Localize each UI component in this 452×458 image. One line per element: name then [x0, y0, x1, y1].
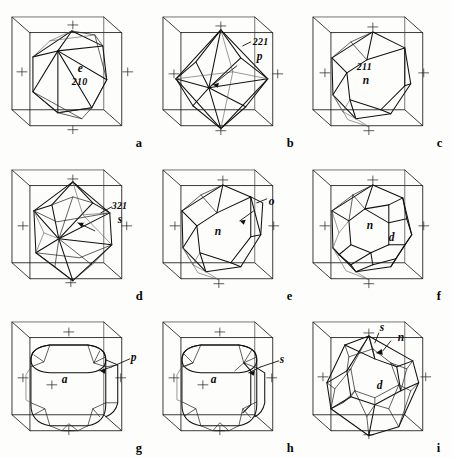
face-symbol-d: d	[389, 230, 395, 242]
labels-e: n o	[215, 195, 275, 237]
axis-ticks-e	[170, 176, 279, 288]
solid-d	[34, 182, 112, 281]
panel-b: 221 p b	[151, 0, 302, 153]
miller-index-321: 321	[111, 200, 128, 211]
face-symbol-n: n	[398, 331, 404, 343]
axis-ticks-f	[320, 176, 429, 288]
panel-d: 321 s d	[0, 153, 151, 306]
axis-ticks-g	[18, 328, 126, 435]
panel-label-h: h	[286, 441, 293, 455]
panel-label-c: c	[437, 136, 443, 150]
face-symbol-a: a	[211, 373, 217, 385]
face-symbol-s: s	[379, 321, 385, 333]
miller-index-211: 211	[356, 61, 372, 72]
panel-h: a s h	[151, 305, 302, 458]
panel-c: 211 n c	[301, 0, 452, 153]
panel-label-e: e	[286, 288, 292, 302]
face-symbol-n: n	[215, 224, 221, 236]
panel-a: e 210 a	[0, 0, 151, 153]
solid-h	[177, 345, 265, 431]
crystal-forms-figure: e 210 a	[0, 0, 452, 458]
labels-a: e 210	[71, 62, 88, 87]
panel-label-d: d	[136, 288, 143, 302]
face-symbol-a: a	[62, 373, 68, 385]
panel-label-f: f	[437, 288, 442, 302]
solid-c	[332, 32, 411, 127]
face-symbol-d: d	[377, 379, 383, 391]
face-symbol-n: n	[363, 74, 369, 86]
face-symbol-p: p	[130, 351, 137, 364]
solid-f	[332, 185, 412, 280]
leader-b	[213, 42, 251, 88]
labels-h: a s	[211, 353, 285, 385]
solid-a	[33, 31, 107, 119]
panel-g: a p g	[0, 305, 151, 458]
face-symbol-o: o	[268, 195, 274, 207]
labels-d: 321 s	[111, 200, 128, 225]
face-symbol-p: p	[255, 50, 262, 63]
face-symbol-n: n	[367, 218, 373, 230]
face-symbol-e: e	[78, 62, 83, 74]
panel-label-i: i	[437, 441, 441, 455]
panel-label-g: g	[136, 441, 143, 455]
panel-f: n d f	[301, 153, 452, 306]
miller-index-210: 210	[71, 76, 88, 87]
face-symbol-s: s	[117, 212, 123, 224]
labels-c: 211 n	[356, 61, 372, 86]
panel-label-b: b	[286, 136, 293, 150]
axis-ticks-c	[320, 23, 429, 135]
labels-i: s n d	[377, 321, 404, 391]
axis-ticks-h	[169, 328, 277, 435]
labels-b: 221 p	[251, 36, 268, 63]
solid-e	[182, 185, 263, 280]
miller-index-221: 221	[251, 36, 268, 47]
panel-i: s n d i	[301, 305, 452, 458]
panel-label-a: a	[136, 136, 143, 150]
labels-g: a p	[62, 351, 137, 385]
face-symbol-s: s	[278, 353, 284, 365]
panel-e: n o e	[151, 153, 302, 306]
